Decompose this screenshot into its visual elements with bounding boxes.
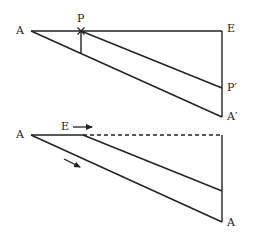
bottom-diagonal-A-A [31, 135, 222, 222]
top-diagonal-P-P-prime [81, 31, 222, 88]
label-bottom-E: E [61, 121, 69, 132]
bottom-diagonal-from-E [83, 135, 222, 191]
geometry-figure: A P E P′ A′ A E A [0, 0, 255, 247]
down-right-arrow-icon [64, 159, 80, 167]
label-top-E: E [227, 23, 235, 34]
top-diagram [31, 28, 222, 118]
bottom-diagram [31, 127, 222, 222]
top-diagonal-A-A-prime [31, 31, 222, 117]
label-bottom-A: A [16, 129, 24, 140]
diagram-canvas [0, 0, 255, 247]
label-top-P: P [77, 13, 84, 24]
label-top-A-prime: A′ [227, 111, 237, 122]
label-top-A: A [16, 25, 24, 36]
label-bottom-A-end: A [227, 217, 235, 228]
label-top-P-prime: P′ [227, 82, 237, 93]
